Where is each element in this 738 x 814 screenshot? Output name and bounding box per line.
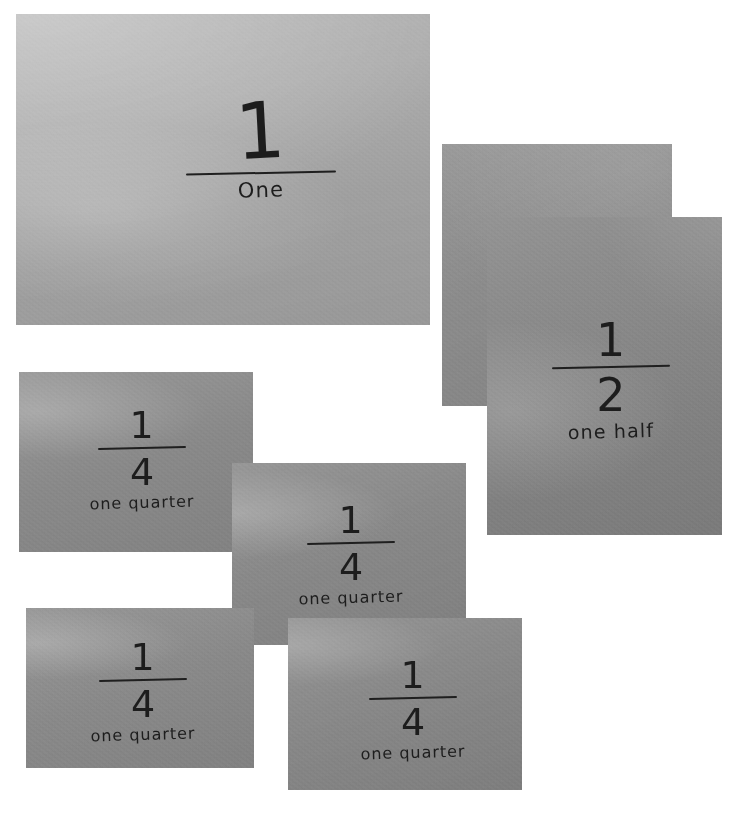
numerator: 1 bbox=[541, 317, 681, 363]
handwriting-one: 1 One bbox=[176, 92, 346, 201]
card-quarter-3[interactable]: 1 4 one quarter bbox=[26, 608, 254, 768]
card-quarter-1[interactable]: 1 4 one quarter bbox=[19, 372, 253, 552]
numerator: 1 bbox=[88, 638, 198, 676]
word-label: one quarter bbox=[296, 588, 406, 607]
denominator: 2 bbox=[541, 372, 681, 418]
denominator: 4 bbox=[296, 548, 406, 586]
handwriting-one-quarter: 1 4 one quarter bbox=[87, 406, 197, 511]
denominator: 4 bbox=[88, 685, 198, 723]
card-one[interactable]: 1 One bbox=[16, 14, 430, 325]
handwriting-one-quarter: 1 4 one quarter bbox=[358, 656, 468, 761]
word-label: one quarter bbox=[87, 493, 197, 512]
handwriting-one-half: 1 2 one half bbox=[541, 317, 681, 441]
handwriting-one-quarter: 1 4 one quarter bbox=[88, 638, 198, 743]
word-label: one quarter bbox=[88, 725, 198, 744]
card-half[interactable]: 1 2 one half bbox=[487, 217, 722, 535]
handwriting-one-quarter: 1 4 one quarter bbox=[296, 501, 406, 606]
denominator: 4 bbox=[358, 703, 468, 741]
card-quarter-4[interactable]: 1 4 one quarter bbox=[288, 618, 522, 790]
numerator: 1 bbox=[358, 656, 468, 694]
word-label: one half bbox=[541, 420, 681, 443]
word-label: One bbox=[176, 178, 347, 204]
denominator: 4 bbox=[87, 453, 197, 491]
numerator: 1 bbox=[296, 501, 406, 539]
word-label: one quarter bbox=[358, 743, 468, 762]
numerator: 1 bbox=[87, 406, 197, 444]
fraction-cards-scene: 1 One 1 2 one half 1 4 one quarter 1 bbox=[0, 0, 738, 814]
numerator: 1 bbox=[174, 88, 348, 175]
